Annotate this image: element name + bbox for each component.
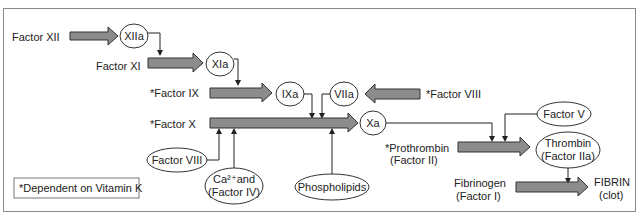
arrow-viii-reverse bbox=[365, 84, 420, 103]
label-factor-xi: Factor XI bbox=[96, 60, 141, 72]
label-fibrinogen: Fibrinogen bbox=[454, 177, 506, 189]
arrow-prothrombin bbox=[458, 137, 530, 156]
arrow-fibrinogen bbox=[516, 177, 588, 196]
connector-factor-v bbox=[505, 114, 537, 139]
node-xa-label: Xa bbox=[366, 117, 380, 129]
arrow-x bbox=[210, 113, 358, 132]
arrow-ix bbox=[210, 83, 272, 102]
connector-xiia bbox=[148, 33, 160, 53]
arrow-xii bbox=[70, 27, 118, 45]
node-xiia-label: XIIa bbox=[124, 30, 144, 42]
label-fibrinogen-2: (Factor I) bbox=[456, 190, 501, 202]
connector-xia bbox=[234, 59, 238, 83]
connector-factor-viii bbox=[207, 131, 219, 160]
node-phospholipids-label: Phospholipids bbox=[298, 181, 367, 193]
label-prothrombin-2: (Factor II) bbox=[390, 154, 438, 166]
label-prothrombin: *Prothrombin bbox=[385, 142, 449, 154]
vitamin-k-note: *Dependent on Vitamin K bbox=[19, 182, 143, 194]
node-thrombin-label-2: (Factor IIa) bbox=[541, 150, 595, 162]
node-calcium-label-1: Ca²⁺and bbox=[213, 173, 255, 185]
coagulation-diagram: Factor XII XIIa Factor XI XIa *Factor IX… bbox=[0, 0, 639, 215]
node-calcium-label-2: (Factor IV) bbox=[208, 186, 260, 198]
connector-ixa bbox=[304, 94, 312, 116]
node-xia-label: XIa bbox=[212, 58, 229, 70]
label-fibrin: FIBRIN bbox=[594, 176, 630, 188]
label-factor-viii-right: *Factor VIII bbox=[426, 88, 481, 100]
node-viia-label: VIIa bbox=[334, 88, 354, 100]
label-clot: (clot) bbox=[599, 189, 623, 201]
node-ixa-label: IXa bbox=[282, 88, 299, 100]
node-thrombin-label-1: Thrombin bbox=[545, 137, 591, 149]
label-factor-ix: *Factor IX bbox=[150, 87, 200, 99]
node-factor-viii-label: Factor VIII bbox=[152, 154, 203, 166]
connector-viia bbox=[322, 94, 330, 116]
label-factor-x: *Factor X bbox=[150, 118, 197, 130]
node-factor-v-label: Factor V bbox=[543, 108, 585, 120]
label-factor-xii: Factor XII bbox=[12, 31, 60, 43]
connector-xa bbox=[386, 123, 492, 139]
arrow-xi bbox=[148, 53, 203, 72]
